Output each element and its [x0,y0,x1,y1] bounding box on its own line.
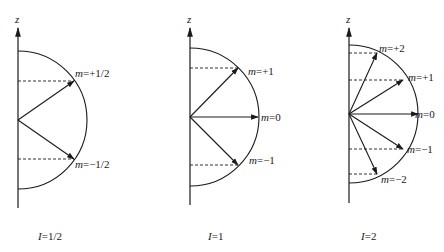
m-label: m=0 [415,108,435,120]
panel-caption: I=1/2 [37,230,62,242]
state-vector: m=−1 [349,114,433,155]
panel-spin-two: zm=+2m=+1m=0m=−1m=−2I=2 [345,13,435,242]
state-vector: m=0 [349,108,435,120]
panel-caption: I=2 [360,230,376,242]
angular-momentum-arrow [190,68,238,117]
m-label: m=+1 [248,65,274,77]
m-label: m=+1 [408,71,434,83]
z-axis-label: z [186,13,192,25]
state-vector: m=+1/2 [18,67,109,120]
angular-momentum-arrow [18,81,74,120]
state-vector: m=−1 [190,117,275,166]
m-label: m=−1 [407,143,433,155]
m-label: m=+2 [379,42,405,54]
panel-spin-one: zm=+1m=0m=−1I=1 [186,13,281,242]
m-label: m=−2 [381,173,407,185]
z-axis-label: z [14,13,20,25]
m-label: m=−1 [249,154,275,166]
m-label: m=0 [261,111,281,123]
z-axis-label: z [345,13,351,25]
m-label: m=−1/2 [75,158,109,170]
state-vector: m=−2 [349,114,407,185]
state-vector: m=0 [190,111,281,123]
angular-momentum-arrow [190,117,238,165]
panel-caption: I=1 [207,230,223,242]
angular-momentum-arrow [18,120,74,159]
m-label: m=+1/2 [75,67,109,79]
state-vector: m=+1 [190,65,274,117]
vector-model-diagram: zm=+1/2m=−1/2I=1/2zm=+1m=0m=−1I=1zm=+2m=… [0,0,444,252]
state-vector: m=−1/2 [18,120,109,170]
state-vector: m=+2 [349,42,405,114]
panel-spin-half: zm=+1/2m=−1/2I=1/2 [14,13,109,242]
